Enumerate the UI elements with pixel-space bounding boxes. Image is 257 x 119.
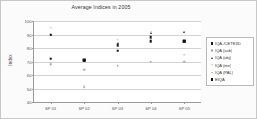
legend-label: IQA (obj) — [215, 55, 231, 60]
legend-item[interactable]: ×IQA (me) — [209, 62, 252, 69]
x-tick-label: SP 05 — [179, 106, 190, 111]
data-point — [183, 60, 186, 63]
gridline — [34, 35, 201, 36]
data-point — [116, 64, 119, 67]
x-tick-label: SP 04 — [145, 106, 156, 111]
y-tick-label: 80 — [27, 46, 34, 51]
legend-item[interactable]: IQA (obj) — [209, 54, 252, 61]
legend-label: EIQA — [215, 77, 225, 82]
legend-item[interactable]: EIQA — [209, 76, 252, 83]
y-tick-label: 90 — [27, 32, 34, 37]
data-point — [83, 68, 86, 71]
data-point — [150, 36, 153, 39]
x-tick-label: SP 03 — [112, 106, 123, 111]
data-point — [150, 60, 153, 63]
y-tick-label: 70 — [27, 59, 34, 64]
x-tick-mark — [51, 102, 52, 104]
data-point — [83, 59, 86, 62]
data-point — [49, 58, 52, 61]
y-tick-label: 40 — [27, 100, 34, 105]
legend-label: IQA (me) — [215, 63, 231, 68]
x-tick-label: SP 01 — [45, 106, 56, 111]
data-point — [184, 54, 186, 56]
x-tick-mark — [151, 102, 152, 104]
legend-item[interactable]: IQA-/CETE3D — [209, 40, 252, 47]
gridline — [34, 89, 201, 90]
data-point — [117, 42, 119, 44]
x-tick-label: SP 02 — [78, 106, 89, 111]
data-point — [50, 34, 52, 36]
data-point — [150, 40, 153, 43]
data-point — [183, 40, 186, 43]
data-point: × — [116, 38, 119, 41]
gridline — [34, 62, 201, 63]
chart-title: Average Indices in 2005 — [1, 4, 201, 10]
data-point: × — [183, 30, 186, 33]
data-point — [116, 49, 119, 52]
data-point — [83, 86, 85, 88]
data-point — [49, 63, 52, 66]
gridline — [34, 75, 201, 76]
plot-area: 100908070605040SP 01SP 02SP 03SP 04SP 05… — [33, 21, 201, 103]
gridline — [34, 21, 201, 22]
y-axis-label: Index — [8, 54, 13, 65]
x-tick-mark — [118, 102, 119, 104]
y-tick-label: 100 — [25, 19, 35, 24]
legend-label: IQA (sub) — [215, 48, 232, 53]
legend-label: IQA (PAL) — [215, 70, 233, 75]
legend-item[interactable]: IQA (sub) — [209, 47, 252, 54]
y-tick-label: 60 — [27, 73, 34, 78]
data-point: × — [49, 26, 52, 29]
data-point: × — [149, 30, 152, 33]
x-tick-mark — [184, 102, 185, 104]
chart-legend: IQA-/CETE3DIQA (sub)IQA (obj)×IQA (me)IQ… — [206, 37, 254, 86]
x-tick-mark — [84, 102, 85, 104]
legend-label: IQA-/CETE3D — [215, 41, 241, 46]
data-point — [116, 44, 119, 47]
y-tick-label: 50 — [27, 86, 34, 91]
chart-figure: Average Indices in 2005 Index 1009080706… — [0, 0, 257, 119]
legend-item[interactable]: IQA (PAL) — [209, 69, 252, 76]
